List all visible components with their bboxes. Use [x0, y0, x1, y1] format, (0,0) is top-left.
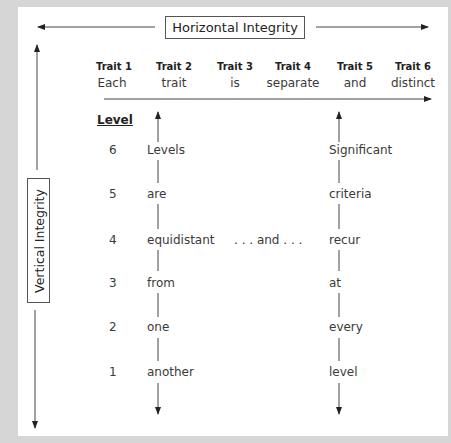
- horizontal-integrity-text: Horizontal Integrity: [172, 20, 298, 35]
- level-left-word: equidistant: [147, 233, 215, 247]
- vertical-integrity-label: Vertical Integrity: [27, 178, 50, 303]
- level-middle-text: . . . and . . .: [234, 233, 302, 247]
- trait-word: distinct: [391, 76, 435, 90]
- level-number: 3: [109, 276, 117, 290]
- trait-word: separate: [267, 76, 320, 90]
- level-right-word: recur: [329, 233, 360, 247]
- level-number: 5: [109, 187, 117, 201]
- level-left-word: from: [147, 276, 175, 290]
- trait-header: Trait 5: [337, 61, 373, 72]
- trait-word: is: [230, 76, 240, 90]
- level-number: 2: [109, 320, 117, 334]
- level-left-word: are: [147, 187, 166, 201]
- trait-word: Each: [97, 76, 126, 90]
- vertical-integrity-text: Vertical Integrity: [31, 189, 46, 293]
- level-number: 1: [109, 365, 117, 379]
- trait-header: Trait 6: [395, 61, 431, 72]
- level-left-word: one: [147, 320, 169, 334]
- trait-word: trait: [161, 76, 186, 90]
- level-number: 4: [109, 233, 117, 247]
- level-right-word: criteria: [329, 187, 372, 201]
- level-right-word: Significant: [329, 143, 392, 157]
- level-heading: Level: [97, 113, 133, 127]
- level-right-word: at: [329, 276, 341, 290]
- level-right-word: level: [329, 365, 358, 379]
- trait-word: and: [344, 76, 367, 90]
- level-left-word: another: [147, 365, 194, 379]
- horizontal-integrity-label: Horizontal Integrity: [165, 16, 305, 39]
- trait-header: Trait 1: [96, 61, 132, 72]
- level-number: 6: [109, 143, 117, 157]
- trait-header: Trait 2: [156, 61, 192, 72]
- trait-header: Trait 4: [275, 61, 311, 72]
- trait-header: Trait 3: [217, 61, 253, 72]
- level-right-word: every: [329, 320, 363, 334]
- level-left-word: Levels: [147, 143, 185, 157]
